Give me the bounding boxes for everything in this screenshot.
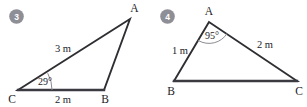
badge-number-3: 3 — [14, 12, 19, 22]
angle-label-A-fig4: 95° — [205, 30, 219, 41]
vertex-label-A-fig3: A — [130, 2, 139, 14]
geometry-figure-pair: 3 A B C 3 m 2 m 29° 4 — [0, 0, 307, 107]
side-label-AB-fig4: 1 m — [172, 45, 188, 56]
figure-4-group: 4 A B C 1 m 2 m 95° — [160, 5, 303, 97]
side-label-CB-fig3: 2 m — [55, 94, 71, 105]
triangle-3-outline — [18, 19, 130, 90]
figures-svg: 3 A B C 3 m 2 m 29° 4 — [0, 0, 307, 107]
angle-label-C-fig3: 29° — [38, 76, 52, 87]
figure-3-badge: 3 — [9, 9, 24, 24]
figure-3-group: 3 A B C 3 m 2 m 29° — [8, 2, 139, 105]
side-label-CA-fig3: 3 m — [55, 43, 71, 54]
vertex-label-B-fig3: B — [101, 93, 109, 105]
vertex-label-B-fig4: B — [167, 85, 175, 97]
vertex-label-A-fig4: A — [205, 5, 214, 17]
vertex-label-C-fig3: C — [8, 93, 16, 105]
figure-4-badge: 4 — [160, 9, 175, 24]
side-label-AC-fig4: 2 m — [257, 39, 273, 50]
triangle-4-outline — [174, 22, 297, 81]
vertex-label-C-fig4: C — [295, 85, 303, 97]
badge-number-4: 4 — [165, 12, 170, 22]
